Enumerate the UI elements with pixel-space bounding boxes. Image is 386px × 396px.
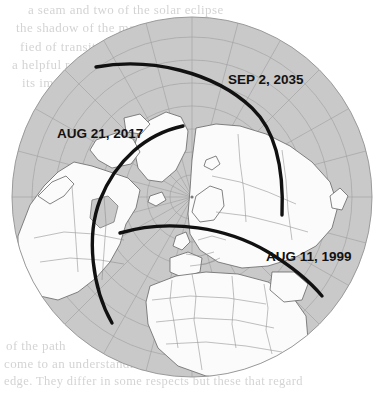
eclipse-path-map: SEP 2, 2035 AUG 21, 2017 AUG 11, 1999 [0,0,386,396]
eclipse-label-1999: AUG 11, 1999 [266,249,352,264]
eclipse-label-2017: AUG 21, 2017 [57,126,143,141]
north-pole-marker [190,195,193,198]
eclipse-label-2035: SEP 2, 2035 [228,72,304,87]
